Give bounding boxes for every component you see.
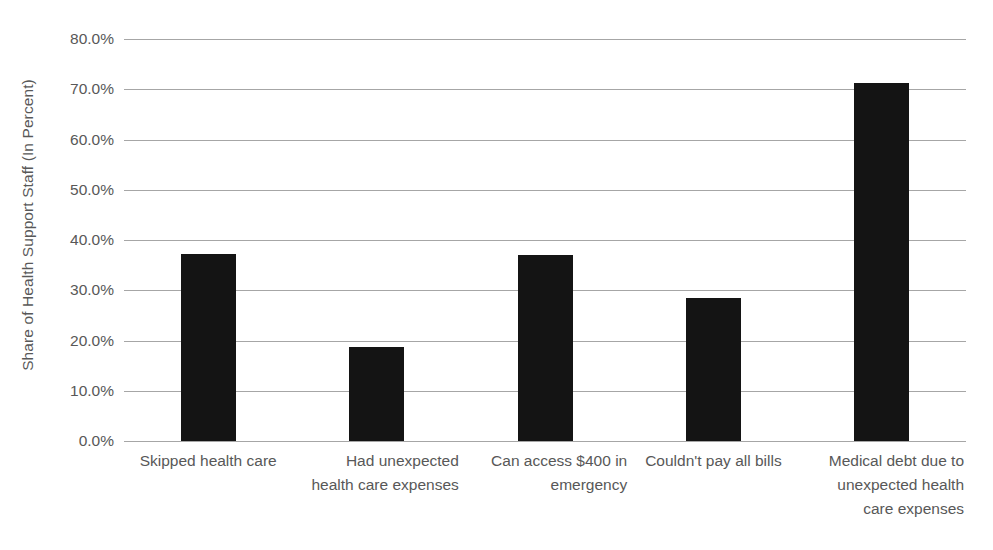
y-axis-tick-label: 70.0% <box>70 80 114 98</box>
x-axis-tick-label: unexpected health <box>800 473 964 497</box>
bar-chart: Share of Health Support Staff (In Percen… <box>0 0 993 550</box>
x-axis-label-cell: Can access $400 inemergency <box>461 449 629 549</box>
y-axis-title-text: Share of Health Support Staff (In Percen… <box>19 79 37 371</box>
y-axis-tick-labels: 80.0%70.0%60.0%50.0%40.0%30.0%20.0%10.0%… <box>56 0 118 450</box>
x-axis-tick-label: care expenses <box>800 497 964 521</box>
x-axis-label-cell: Skipped health care <box>124 449 292 549</box>
x-axis-label-cell: Couldn't pay all bills <box>629 449 797 549</box>
x-axis-tick-label: Had unexpected <box>294 449 458 473</box>
bar-cell <box>629 39 797 441</box>
bar-cell <box>461 39 629 441</box>
bar-cell <box>124 39 292 441</box>
x-axis-tick-labels: Skipped health careHad unexpectedhealth … <box>124 449 966 549</box>
y-axis-tick-label: 20.0% <box>70 332 114 350</box>
y-axis-tick-label: 40.0% <box>70 231 114 249</box>
plot-area <box>124 39 966 441</box>
x-axis-tick-label: Medical debt due to <box>800 449 964 473</box>
y-axis-tick-label: 10.0% <box>70 382 114 400</box>
y-axis-title: Share of Health Support Staff (In Percen… <box>0 0 56 450</box>
bar-cell <box>798 39 966 441</box>
y-axis-tick-label: 0.0% <box>79 432 114 450</box>
x-axis-tick-label: Couldn't pay all bills <box>631 449 795 473</box>
x-axis-label-cell: Had unexpectedhealth care expenses <box>292 449 460 549</box>
bar[interactable] <box>854 83 909 441</box>
y-axis-tick-label: 60.0% <box>70 131 114 149</box>
bar-cell <box>292 39 460 441</box>
gridline <box>124 441 966 442</box>
y-axis-tick-label: 80.0% <box>70 30 114 48</box>
x-axis-tick-label: health care expenses <box>294 473 458 497</box>
bar[interactable] <box>181 254 236 441</box>
y-axis-tick-label: 50.0% <box>70 181 114 199</box>
x-axis-tick-label: Skipped health care <box>126 449 290 473</box>
x-axis-label-cell: Medical debt due tounexpected healthcare… <box>798 449 966 549</box>
bar[interactable] <box>349 347 404 441</box>
bars-layer <box>124 39 966 441</box>
x-axis-tick-label: emergency <box>463 473 627 497</box>
y-axis-tick-label: 30.0% <box>70 281 114 299</box>
bar[interactable] <box>518 255 573 441</box>
bar[interactable] <box>686 298 741 441</box>
x-axis-tick-label: Can access $400 in <box>463 449 627 473</box>
